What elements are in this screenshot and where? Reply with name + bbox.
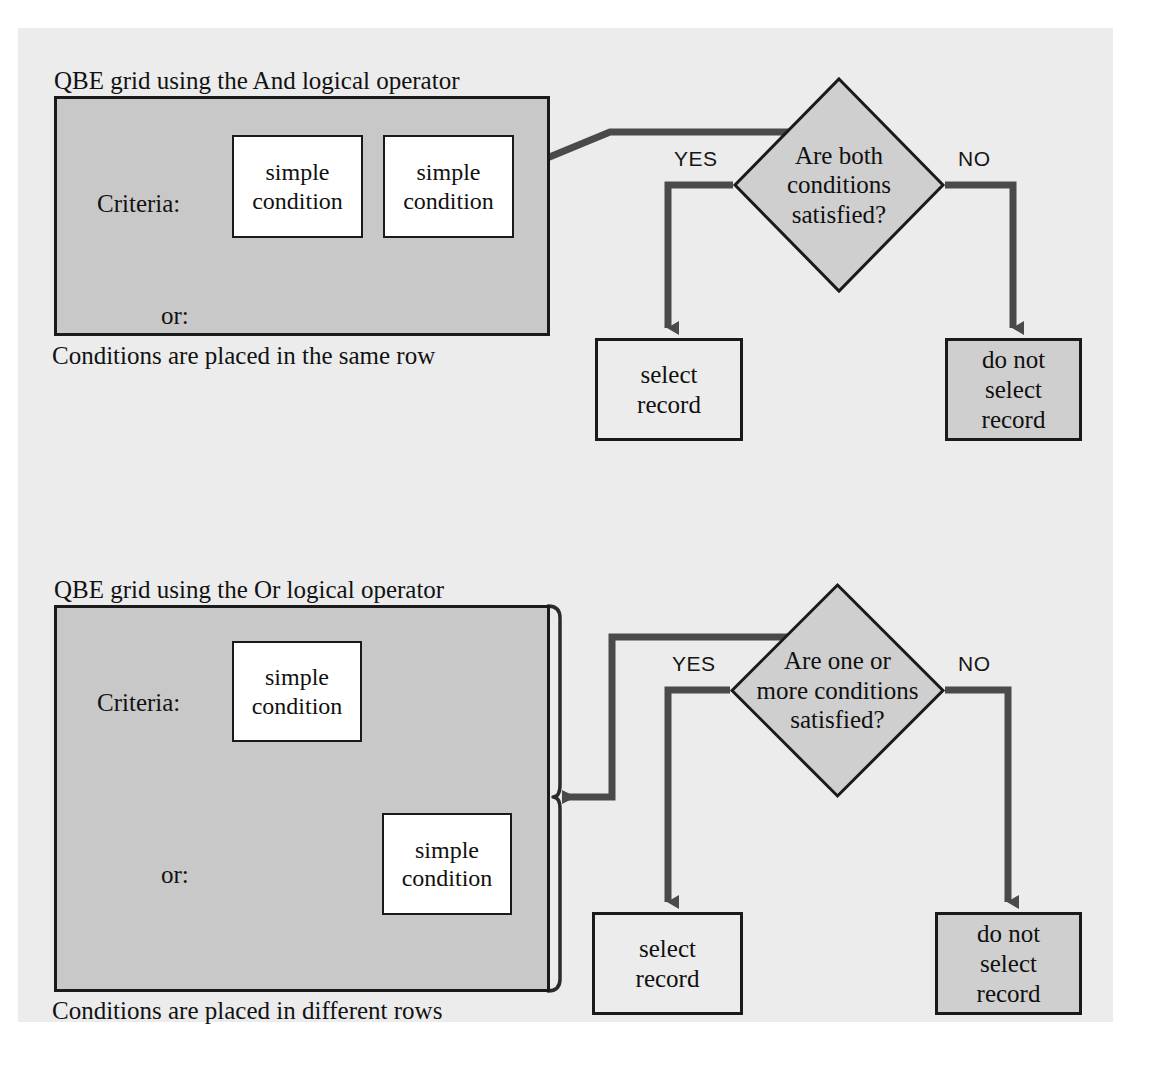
diagram-page: QBE grid using the And logical operator …: [0, 0, 1151, 1072]
outcome-line-2: record: [637, 390, 701, 420]
diamond-shape: [730, 583, 945, 798]
outcome-line-2: select: [985, 375, 1042, 405]
or-qbe-grid: Criteria: or: simple condition simple co…: [54, 605, 550, 992]
and-grid-row-label-or: or:: [161, 303, 189, 328]
or-select-record-box: select record: [592, 912, 743, 1015]
and-no-connector: [945, 185, 1013, 328]
and-decision-diamond: Are both conditions satisfied?: [733, 77, 945, 293]
or-condition-box-2: simple condition: [382, 813, 512, 915]
outcome-line-1: do not: [982, 345, 1045, 375]
condition-line-2: condition: [252, 187, 343, 215]
and-yes-connector: [668, 185, 733, 328]
or-section-caption: Conditions are placed in different rows: [52, 998, 442, 1023]
or-do-not-select-record-box: do not select record: [935, 912, 1082, 1015]
and-select-record-box: select record: [595, 338, 743, 441]
condition-line-2: condition: [402, 864, 493, 892]
or-no-label: NO: [958, 653, 991, 674]
and-condition-box-1: simple condition: [232, 135, 363, 238]
condition-line-2: condition: [403, 187, 494, 215]
outcome-line-3: record: [982, 405, 1046, 435]
diamond-shape: [733, 77, 945, 293]
or-yes-label: YES: [672, 653, 716, 674]
and-section-caption: Conditions are placed in the same row: [52, 343, 435, 368]
and-do-not-select-record-box: do not select record: [945, 338, 1082, 441]
or-condition-box-1: simple condition: [232, 641, 362, 742]
outcome-line-1: do not: [977, 919, 1040, 949]
outcome-line-2: record: [636, 964, 700, 994]
or-section-title: QBE grid using the Or logical operator: [54, 577, 444, 602]
outcome-line-1: select: [639, 934, 696, 964]
and-grid-row-label-criteria: Criteria:: [97, 191, 180, 216]
or-grid-row-label-or: or:: [161, 862, 189, 887]
and-condition-box-2: simple condition: [383, 135, 514, 238]
outcome-line-3: record: [977, 979, 1041, 1009]
outcome-line-2: select: [980, 949, 1037, 979]
and-yes-label: YES: [674, 148, 718, 169]
or-grid-row-label-criteria: Criteria:: [97, 690, 180, 715]
or-no-connector: [945, 690, 1008, 902]
condition-line-1: simple: [265, 663, 329, 691]
and-no-label: NO: [958, 148, 991, 169]
condition-line-1: simple: [266, 158, 330, 186]
outcome-line-1: select: [641, 360, 698, 390]
condition-line-1: simple: [417, 158, 481, 186]
and-section-title: QBE grid using the And logical operator: [54, 68, 459, 93]
and-qbe-grid: Criteria: or: simple condition simple co…: [54, 96, 550, 336]
or-yes-connector: [668, 690, 730, 902]
diagram-canvas: QBE grid using the And logical operator …: [18, 28, 1113, 1022]
condition-line-1: simple: [415, 836, 479, 864]
or-decision-diamond: Are one or more conditions satisfied?: [730, 583, 945, 798]
condition-line-2: condition: [252, 692, 343, 720]
